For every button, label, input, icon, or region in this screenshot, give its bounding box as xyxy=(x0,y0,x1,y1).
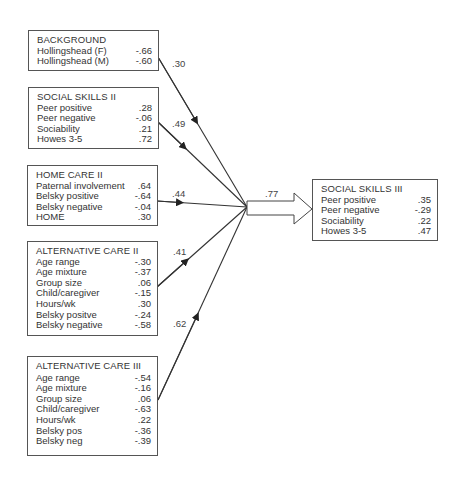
box-title: ALTERNATIVE CARE III xyxy=(36,361,151,372)
path-coefficient-social-skills-ii: .49 xyxy=(172,118,185,129)
box-title: SOCIAL SKILLS III xyxy=(321,184,431,195)
path-coefficient-home-care-ii: .44 xyxy=(172,188,185,199)
social-skills-ii-box: SOCIAL SKILLS II Peer positive.28 Peer n… xyxy=(28,87,159,149)
path-coefficient-alternative-care-ii: .41 xyxy=(173,246,186,257)
path-coefficient-background: .30 xyxy=(172,58,185,69)
indicator-row: Howes 3-5.47 xyxy=(321,226,431,237)
indicator-row: HOME.30 xyxy=(36,212,151,223)
box-title: SOCIAL SKILLS II xyxy=(37,92,152,103)
alternative-care-iii-box: ALTERNATIVE CARE III Age range-.54 Age m… xyxy=(27,356,158,456)
indicator-row: Hollingshead (M)-.60 xyxy=(37,56,152,67)
indicator-row: Hours/wk.22 xyxy=(36,415,151,426)
path-coefficient-alternative-care-iii: .62 xyxy=(173,318,186,329)
social-skills-iii-box: SOCIAL SKILLS III Peer positive.35 Peer … xyxy=(312,179,438,241)
indicator-row: Hours/wk.30 xyxy=(36,299,151,310)
combined-arrow xyxy=(247,193,312,224)
indicator-row: Belsky negative-.58 xyxy=(36,320,151,331)
box-title: BACKGROUND xyxy=(37,35,152,46)
path-coefficient-combined: .77 xyxy=(265,188,278,199)
background-box: BACKGROUND Hollingshead (F)-.66 Hollings… xyxy=(28,30,159,71)
indicator-row: Howes 3-5.72 xyxy=(37,134,152,145)
alternative-care-ii-box: ALTERNATIVE CARE II Age range-.30 Age mi… xyxy=(27,241,158,336)
indicator-row: Belsky neg-.39 xyxy=(36,436,151,447)
home-care-ii-box: HOME CARE II Paternal involvement.64 Bel… xyxy=(27,165,158,226)
box-title: ALTERNATIVE CARE II xyxy=(36,246,151,257)
box-title: HOME CARE II xyxy=(36,170,151,181)
